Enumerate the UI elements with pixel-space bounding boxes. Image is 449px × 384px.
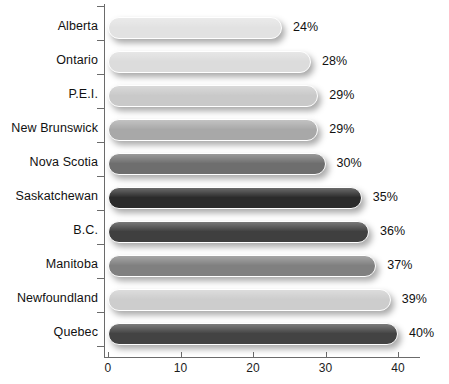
- bar-fill: [108, 187, 362, 209]
- bar-value-label: 39%: [402, 292, 427, 306]
- bar-value-label: 28%: [322, 54, 347, 68]
- bar-row: Alberta24%: [0, 15, 449, 41]
- bar[interactable]: [108, 187, 362, 209]
- bar-fill: [108, 289, 391, 311]
- x-tick-label: 20: [246, 361, 260, 375]
- bar-fill: [108, 153, 326, 175]
- bar[interactable]: [108, 323, 398, 345]
- x-tick-mark: [253, 352, 254, 358]
- bar-value-label: 40%: [409, 326, 434, 340]
- bar-fill: [108, 85, 318, 107]
- bar[interactable]: [108, 17, 282, 39]
- bar-row: P.E.I.29%: [0, 83, 449, 109]
- bar-row: Ontario28%: [0, 49, 449, 75]
- category-label: Ontario: [56, 53, 98, 67]
- bar-row: Manitoba37%: [0, 253, 449, 279]
- category-label: Saskatchewan: [16, 189, 99, 203]
- bar-value-label: 35%: [373, 190, 398, 204]
- bar-row: New Brunswick29%: [0, 117, 449, 143]
- bar-value-label: 29%: [329, 122, 354, 136]
- bar-value-label: 30%: [337, 156, 362, 170]
- category-label: Manitoba: [46, 257, 98, 271]
- x-axis-line: [104, 357, 420, 358]
- category-label: Nova Scotia: [30, 155, 99, 169]
- bar-fill: [108, 255, 376, 277]
- bar[interactable]: [108, 119, 318, 141]
- category-label: Quebec: [54, 325, 98, 339]
- bar-value-label: 37%: [387, 258, 412, 272]
- bar-value-label: 36%: [380, 224, 405, 238]
- x-tick-mark: [398, 352, 399, 358]
- bar-fill: [108, 221, 369, 243]
- category-label: Newfoundland: [17, 291, 98, 305]
- bar-row: Quebec40%: [0, 321, 449, 347]
- x-tick-label: 40: [391, 361, 405, 375]
- bar-row: Newfoundland39%: [0, 287, 449, 313]
- bar-value-label: 24%: [293, 20, 318, 34]
- category-label: P.E.I.: [68, 87, 98, 101]
- x-tick-label: 30: [319, 361, 333, 375]
- bar[interactable]: [108, 255, 376, 277]
- bar-fill: [108, 323, 398, 345]
- bar-chart: 010203040 Alberta24%Ontario28%P.E.I.29%N…: [0, 0, 449, 384]
- x-tick-mark: [108, 352, 109, 358]
- bar-value-label: 29%: [329, 88, 354, 102]
- bar[interactable]: [108, 85, 318, 107]
- bar[interactable]: [108, 221, 369, 243]
- bar-fill: [108, 17, 282, 39]
- category-label: Alberta: [58, 19, 98, 33]
- category-label: New Brunswick: [11, 121, 98, 135]
- bar-row: B.C.36%: [0, 219, 449, 245]
- category-label: B.C.: [73, 223, 98, 237]
- bar-fill: [108, 51, 311, 73]
- y-tick-mark: [97, 6, 105, 7]
- x-tick-mark: [181, 352, 182, 358]
- x-tick-label: 0: [105, 361, 112, 375]
- bar[interactable]: [108, 289, 391, 311]
- bar[interactable]: [108, 51, 311, 73]
- x-tick-label: 10: [174, 361, 188, 375]
- x-tick-mark: [326, 352, 327, 358]
- bar-row: Saskatchewan35%: [0, 185, 449, 211]
- bar[interactable]: [108, 153, 326, 175]
- bar-fill: [108, 119, 318, 141]
- bar-row: Nova Scotia30%: [0, 151, 449, 177]
